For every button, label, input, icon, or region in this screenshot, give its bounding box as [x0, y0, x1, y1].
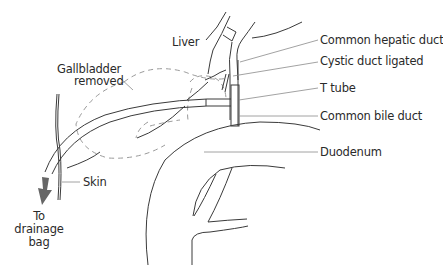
- label-cystic-duct-ligated: Cystic duct ligated: [320, 55, 423, 68]
- label-common-bile-duct: Common bile duct: [320, 110, 422, 123]
- liver-lobes: [67, 106, 185, 168]
- label-bag: bag: [14, 236, 64, 249]
- label-gallbladder-removed: removed: [74, 75, 124, 88]
- label-liver: Liver: [172, 36, 199, 49]
- label-t-tube: T tube: [320, 82, 356, 95]
- drainage-arrow-icon: [38, 177, 52, 205]
- t-tube-drain: [45, 99, 231, 174]
- label-duodenum: Duodenum: [320, 146, 382, 159]
- skin-lines: [56, 94, 61, 200]
- duodenum-outline: [146, 122, 320, 265]
- label-common-hepatic-duct: Common hepatic duct: [320, 34, 443, 47]
- label-skin: Skin: [83, 176, 107, 189]
- liver-outline: [206, 12, 302, 80]
